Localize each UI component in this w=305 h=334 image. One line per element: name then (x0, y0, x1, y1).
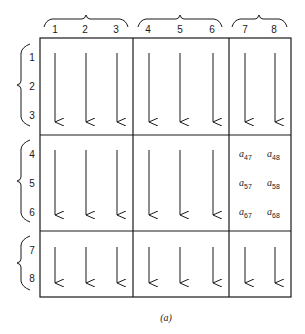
row-labels: 1 2 3 4 5 6 7 8 (29, 52, 35, 284)
column-label-5: 5 (177, 24, 183, 35)
column-label-2: 2 (82, 24, 88, 35)
element-a47: a47 (239, 148, 252, 161)
figure-caption: (a) (160, 312, 172, 324)
column-label-4: 4 (145, 24, 151, 35)
arrows-row-group-1 (55, 53, 275, 122)
row-brace-1 (17, 44, 30, 126)
column-labels: 1 2 3 4 5 6 7 8 (52, 24, 277, 35)
row-label-5: 5 (29, 178, 35, 189)
row-label-4: 4 (29, 149, 35, 160)
row-label-1: 1 (29, 52, 35, 63)
element-a48: a48 (267, 148, 280, 161)
block-elements: a47 a48 a57 a58 a67 a68 (239, 148, 280, 219)
block-grid (40, 38, 291, 297)
arrows-row-group-2 (55, 150, 213, 215)
element-a57: a57 (239, 177, 252, 190)
column-brace-3 (232, 15, 287, 27)
row-label-7: 7 (29, 245, 35, 256)
column-label-3: 3 (113, 24, 119, 35)
row-group-braces (17, 44, 30, 290)
arrows-row-group-3 (55, 247, 275, 283)
row-brace-2 (17, 140, 30, 222)
grid-outer-border (40, 38, 291, 297)
row-label-6: 6 (29, 207, 35, 218)
block-matrix-diagram: 1 2 3 4 5 6 7 8 1 2 3 4 5 6 7 8 (0, 0, 305, 334)
row-brace-3 (17, 236, 30, 290)
column-label-8: 8 (271, 24, 277, 35)
row-label-8: 8 (29, 273, 35, 284)
row-label-2: 2 (29, 81, 35, 92)
column-label-1: 1 (52, 24, 58, 35)
row-label-3: 3 (29, 110, 35, 121)
element-a67: a67 (239, 206, 252, 219)
column-group-braces (44, 15, 287, 27)
element-a58: a58 (267, 177, 280, 190)
column-label-7: 7 (242, 24, 248, 35)
element-a68: a68 (267, 206, 280, 219)
column-label-6: 6 (209, 24, 215, 35)
